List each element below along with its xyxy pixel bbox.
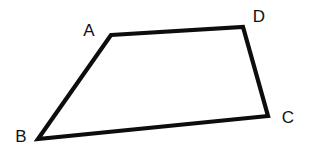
figure-canvas: A D C B [0, 0, 309, 154]
vertex-label-c: C [282, 109, 294, 126]
vertex-label-b: B [15, 128, 26, 145]
vertex-label-d: D [253, 8, 265, 25]
vertex-label-a: A [83, 22, 94, 39]
